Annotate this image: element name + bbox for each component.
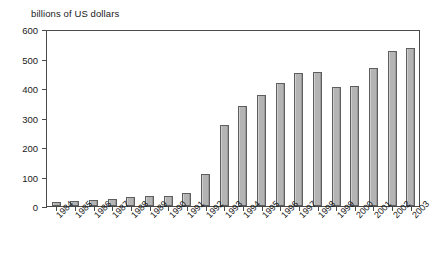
x-label-slot: 1993 bbox=[214, 213, 233, 254]
x-label-slot: 1985 bbox=[65, 213, 84, 254]
bar-2001 bbox=[369, 68, 378, 206]
x-label-slot: 1987 bbox=[102, 213, 121, 254]
x-label-slot: 2003 bbox=[401, 213, 420, 254]
bar-slot bbox=[327, 30, 346, 206]
bar-2000 bbox=[350, 86, 359, 206]
x-label-slot: 2002 bbox=[383, 213, 402, 254]
x-label-slot: 1996 bbox=[270, 213, 289, 254]
x-label-slot: 1995 bbox=[252, 213, 271, 254]
bar-2002 bbox=[388, 51, 397, 206]
bar-slot bbox=[84, 30, 103, 206]
bar-slot bbox=[66, 30, 85, 206]
bar-slot bbox=[122, 30, 141, 206]
bar-slot bbox=[364, 30, 383, 206]
bar-slot bbox=[401, 30, 420, 206]
bar-1996 bbox=[276, 83, 285, 206]
x-label-slot: 1984 bbox=[46, 213, 65, 254]
bar-slot bbox=[252, 30, 271, 206]
bar-slot bbox=[140, 30, 159, 206]
x-label-slot: 1989 bbox=[140, 213, 159, 254]
x-label-slot: 1999 bbox=[327, 213, 346, 254]
bar-1995 bbox=[257, 95, 266, 206]
x-label-slot: 1997 bbox=[289, 213, 308, 254]
bar-slot bbox=[234, 30, 253, 206]
plot-area: 0100200300400500600 bbox=[46, 30, 420, 207]
y-axis-title: billions of US dollars bbox=[31, 8, 119, 19]
x-label-slot: 1991 bbox=[177, 213, 196, 254]
x-axis-labels: 1984198519861987198819891990199119921993… bbox=[46, 213, 420, 254]
x-label-slot: 1986 bbox=[83, 213, 102, 254]
y-axis-tick-label: 400 bbox=[22, 84, 38, 95]
y-axis-tick-label: 100 bbox=[22, 172, 38, 183]
x-label-slot: 1992 bbox=[196, 213, 215, 254]
y-axis-tick-label: 600 bbox=[22, 25, 38, 36]
bar-slot bbox=[178, 30, 197, 206]
bar-1998 bbox=[313, 72, 322, 206]
bar-series bbox=[47, 30, 420, 206]
bar-2003 bbox=[406, 48, 415, 206]
y-axis-tick-label: 0 bbox=[33, 202, 38, 213]
bar-slot bbox=[103, 30, 122, 206]
x-label-slot: 1988 bbox=[121, 213, 140, 254]
bar-1999 bbox=[332, 87, 341, 206]
bar-slot bbox=[308, 30, 327, 206]
x-label-slot: 1994 bbox=[233, 213, 252, 254]
y-axis-tick-label: 200 bbox=[22, 143, 38, 154]
bar-slot bbox=[383, 30, 402, 206]
bar-slot bbox=[290, 30, 309, 206]
y-axis-tick-label: 500 bbox=[22, 54, 38, 65]
bar-slot bbox=[47, 30, 66, 206]
bar-slot bbox=[196, 30, 215, 206]
bar-1994 bbox=[238, 106, 247, 206]
bar-slot bbox=[271, 30, 290, 206]
x-label-slot: 2001 bbox=[364, 213, 383, 254]
bar-1993 bbox=[220, 125, 229, 206]
bar-chart: billions of US dollars 01002003004005006… bbox=[0, 0, 447, 254]
y-axis-tick-label: 300 bbox=[22, 113, 38, 124]
bar-slot bbox=[215, 30, 234, 206]
bar-slot bbox=[346, 30, 365, 206]
x-label-slot: 1990 bbox=[158, 213, 177, 254]
x-label-slot: 2000 bbox=[345, 213, 364, 254]
x-label-slot: 1998 bbox=[308, 213, 327, 254]
bar-1997 bbox=[294, 73, 303, 206]
bar-slot bbox=[159, 30, 178, 206]
